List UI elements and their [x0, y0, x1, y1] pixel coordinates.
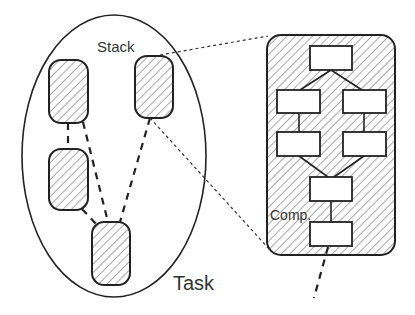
component-label: Comp. [270, 207, 311, 223]
stack-right-top [135, 56, 173, 118]
component-bottom [310, 222, 352, 246]
stack-bottom [92, 222, 130, 285]
task-stack-diagram: Stack Task Comp. [0, 0, 415, 315]
component-mid-left [277, 90, 320, 113]
stack-left-top [49, 60, 88, 123]
stack-left-mid [49, 149, 88, 210]
stack-label: Stack [97, 38, 135, 55]
task-label: Task [173, 272, 215, 294]
zoom-line-bottom [150, 118, 270, 250]
component-low-right [343, 132, 386, 156]
component-center [310, 177, 352, 201]
component-top [310, 46, 352, 70]
component-mid-right [343, 90, 386, 113]
component-low-left [277, 132, 320, 156]
